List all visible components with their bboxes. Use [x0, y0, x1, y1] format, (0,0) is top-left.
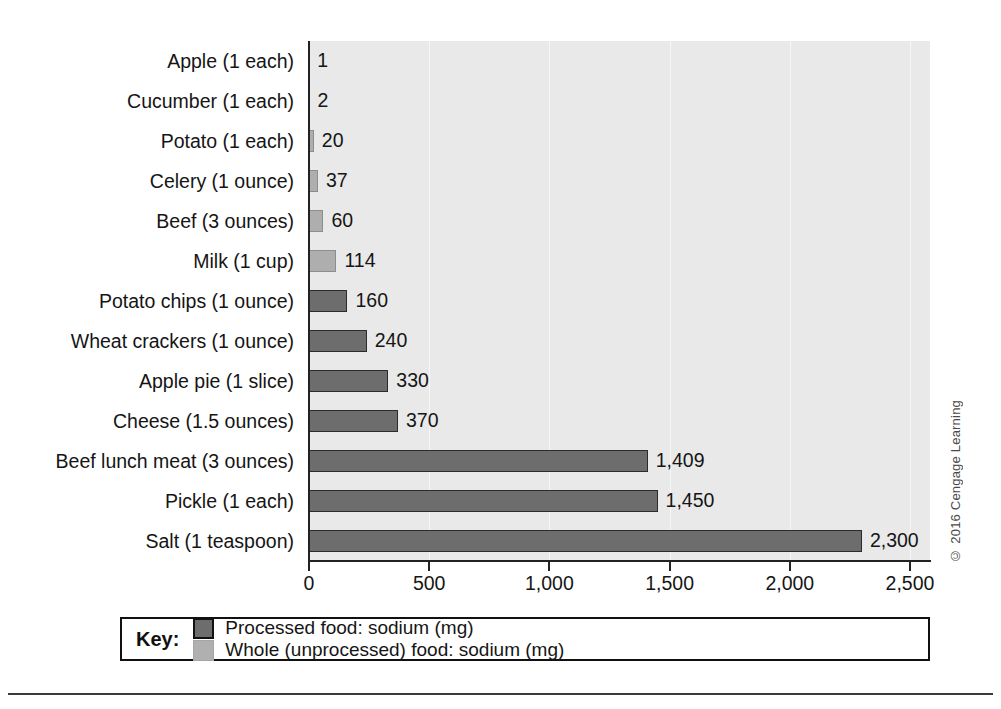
- bar-value-label: 160: [355, 290, 388, 312]
- category-label: Beef lunch meat (3 ounces): [56, 441, 294, 481]
- bar-row: 240: [309, 321, 930, 361]
- x-axis-ticks: 05001,0001,5002,0002,500: [0, 562, 1001, 600]
- legend-label: Whole (unprocessed) food: sodium (mg): [225, 639, 564, 661]
- chart-plot-region: Apple (1 each)Cucumber (1 each)Potato (1…: [0, 0, 1001, 600]
- bar-value-label: 37: [326, 170, 348, 192]
- x-tick-mark: [909, 562, 911, 571]
- bar-value-label: 1,409: [656, 450, 705, 472]
- legend-entry: Processed food: sodium (mg): [193, 617, 564, 639]
- bar-value-label: 370: [406, 410, 439, 432]
- category-label: Potato (1 each): [161, 121, 294, 161]
- legend-entry: Whole (unprocessed) food: sodium (mg): [193, 639, 564, 661]
- legend-entries: Processed food: sodium (mg)Whole (unproc…: [193, 617, 598, 661]
- bar-value-label: 2,300: [870, 530, 919, 552]
- bar: [309, 210, 323, 232]
- bottom-divider-rule: [8, 693, 993, 695]
- category-label: Wheat crackers (1 ounce): [71, 321, 294, 361]
- bar-row: 1,450: [309, 481, 930, 521]
- bar: [309, 410, 398, 432]
- bar-row: 1: [309, 41, 930, 81]
- x-tick-mark: [428, 562, 430, 571]
- bar-value-label: 1: [317, 50, 328, 72]
- x-tick-label: 1,000: [525, 572, 574, 595]
- x-tick-mark: [789, 562, 791, 571]
- bar-value-label: 114: [344, 250, 375, 272]
- legend-swatch-whole: [193, 640, 214, 661]
- category-label: Cheese (1.5 ounces): [113, 401, 294, 441]
- category-label: Beef (3 ounces): [156, 201, 294, 241]
- category-label: Salt (1 teaspoon): [145, 521, 294, 561]
- bar: [309, 170, 318, 192]
- category-label: Celery (1 ounce): [150, 161, 294, 201]
- bar-row: 370: [309, 401, 930, 441]
- bar: [309, 490, 658, 512]
- x-tick-label: 2,000: [765, 572, 814, 595]
- bar: [309, 250, 336, 272]
- sodium-content-bar-chart-figure: Apple (1 each)Cucumber (1 each)Potato (1…: [0, 0, 1001, 709]
- category-label: Milk (1 cup): [193, 241, 294, 281]
- x-tick-label: 1,500: [645, 572, 694, 595]
- copyright-notice: © 2016 Cengage Learning: [948, 400, 963, 563]
- category-label: Potato chips (1 ounce): [99, 281, 294, 321]
- category-label: Apple pie (1 slice): [139, 361, 294, 401]
- x-tick-label: 2,500: [886, 572, 935, 595]
- bar-row: 60: [309, 201, 930, 241]
- legend-label: Processed food: sodium (mg): [225, 617, 473, 639]
- bar-value-label: 20: [322, 130, 344, 152]
- bar-row: 330: [309, 361, 930, 401]
- x-tick-label: 0: [304, 572, 315, 595]
- bar-row: 37: [309, 161, 930, 201]
- x-tick-mark: [548, 562, 550, 571]
- bar-value-label: 2: [317, 90, 328, 112]
- bar-value-label: 330: [396, 370, 429, 392]
- bar: [309, 370, 388, 392]
- bar-value-label: 60: [331, 210, 353, 232]
- bar: [309, 290, 347, 312]
- y-axis-line: [308, 41, 310, 562]
- x-tick-mark: [308, 562, 310, 571]
- bar-row: 1,409: [309, 441, 930, 481]
- legend-key-label: Key:: [136, 628, 179, 651]
- bar: [309, 450, 648, 472]
- category-axis-labels: Apple (1 each)Cucumber (1 each)Potato (1…: [0, 41, 302, 560]
- x-tick-mark: [669, 562, 671, 571]
- legend-swatch-processed: [193, 618, 214, 639]
- bar-value-label: 1,450: [666, 490, 715, 512]
- category-label: Cucumber (1 each): [127, 81, 294, 121]
- category-label: Pickle (1 each): [165, 481, 294, 521]
- bar-row: 2,300: [309, 521, 930, 561]
- bar: [309, 330, 367, 352]
- bar: [309, 530, 862, 552]
- chart-legend: Key: Processed food: sodium (mg)Whole (u…: [120, 617, 930, 661]
- bar-row: 2: [309, 81, 930, 121]
- bar-row: 20: [309, 121, 930, 161]
- category-label: Apple (1 each): [167, 41, 294, 81]
- bar-row: 160: [309, 281, 930, 321]
- x-tick-label: 500: [413, 572, 446, 595]
- bar-row: 114: [309, 241, 930, 281]
- bar-value-label: 240: [375, 330, 408, 352]
- plot-area: 122037601141602403303701,4091,4502,300: [309, 41, 930, 560]
